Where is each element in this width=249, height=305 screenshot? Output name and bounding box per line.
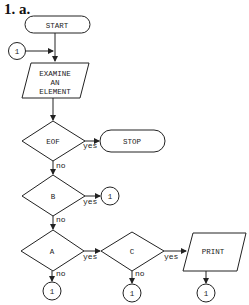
a-label: A <box>50 248 55 256</box>
eof-label: EOF <box>46 138 60 146</box>
b-no-label: no <box>56 215 66 224</box>
examine-label-line3: ELEMENT <box>39 88 71 96</box>
a-no-label: no <box>56 269 66 278</box>
a-no-connector-label: 1 <box>50 288 55 296</box>
c-yes-label: yes <box>164 252 179 261</box>
stop-label: STOP <box>123 138 142 146</box>
entry-connector-label: 1 <box>15 48 20 56</box>
eof-no-label: no <box>56 161 66 170</box>
b-label: B <box>51 193 56 201</box>
flowchart: START 1 EXAMINE AN ELEMENT EOF STOP B 1 … <box>0 0 249 305</box>
b-yes-label: yes <box>83 197 98 206</box>
a-yes-label: yes <box>83 252 98 261</box>
eof-yes-label: yes <box>83 141 98 150</box>
c-no-label: no <box>135 269 145 278</box>
print-label: PRINT <box>202 248 225 256</box>
c-no-connector-label: 1 <box>130 290 135 298</box>
print-connector-label: 1 <box>204 290 209 298</box>
examine-label-line1: EXAMINE <box>39 70 71 78</box>
start-label: START <box>46 22 69 30</box>
c-label: C <box>130 248 135 256</box>
examine-label-line2: AN <box>50 79 59 87</box>
b-yes-connector-label: 1 <box>108 193 113 201</box>
